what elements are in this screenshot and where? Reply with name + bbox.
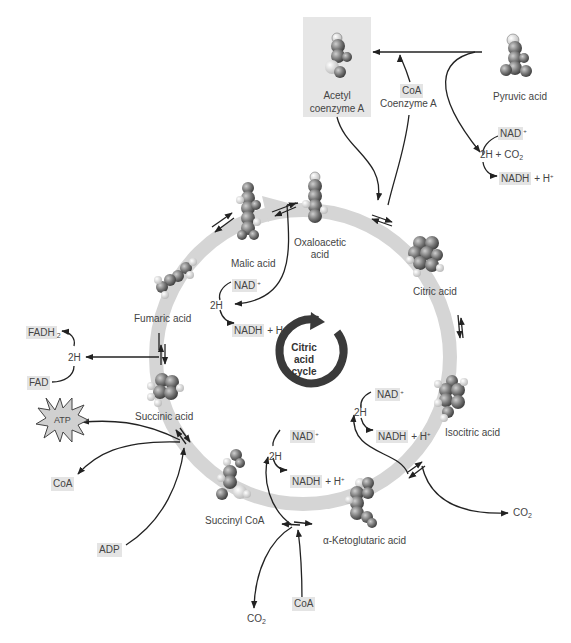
pyr-nad: NAD+ bbox=[498, 125, 527, 140]
fad: FAD bbox=[27, 376, 50, 390]
label-ketoglutaric-acid: α-Ketoglutaric acid bbox=[323, 535, 406, 547]
coa-left: CoA bbox=[51, 477, 74, 491]
label-acetyl-coa-line2: coenzyme A bbox=[303, 103, 371, 115]
ketoglutaric-molecule-icon bbox=[345, 477, 377, 528]
label-oxaloacetic-line1: Oxaloacetic bbox=[290, 237, 350, 249]
iso-co2: CO2 bbox=[513, 507, 532, 522]
iso-nad: NAD+ bbox=[375, 386, 404, 401]
fadh2: FADH2 bbox=[26, 327, 61, 342]
center-line1: Citric bbox=[284, 342, 324, 354]
iso-nadh: NADH + H+ bbox=[376, 428, 430, 443]
chip-coa-top: CoA bbox=[400, 84, 423, 98]
mal-2h: 2H bbox=[210, 300, 223, 312]
kg-nadh: NADH + H+ bbox=[290, 473, 344, 488]
fum-2h: 2H bbox=[68, 352, 81, 364]
label-oxaloacetic-line2: acid bbox=[290, 249, 350, 261]
kg-co2: CO2 bbox=[247, 613, 266, 628]
mal-nadh: NADH + H+ bbox=[232, 322, 286, 337]
center-line2: acid bbox=[284, 354, 324, 366]
label-pyruvic-acid: Pyruvic acid bbox=[490, 91, 550, 103]
kg-nad: NAD+ bbox=[290, 428, 319, 443]
atp-label: ATP bbox=[54, 414, 71, 426]
label-succinyl-coa: Succinyl CoA bbox=[205, 515, 264, 527]
center-cycle-title: Citric acid cycle bbox=[284, 342, 324, 378]
label-acetyl-coa-line1: Acetyl bbox=[303, 90, 371, 102]
pyruvic-molecule-icon bbox=[500, 34, 532, 77]
label-isocitric-acid: Isocitric acid bbox=[445, 427, 500, 439]
label-citric-acid: Citric acid bbox=[413, 286, 457, 298]
iso-2h: 2H bbox=[354, 407, 367, 419]
label-succinic-acid: Succinic acid bbox=[135, 411, 193, 423]
center-cycle-arrowhead bbox=[310, 312, 325, 330]
label-coenzyme-a: Coenzyme A bbox=[380, 98, 437, 110]
mal-nad: NAD+ bbox=[232, 277, 261, 292]
label-malic-acid: Malic acid bbox=[231, 258, 275, 270]
kg-2h: 2H bbox=[269, 451, 282, 463]
center-line3: cycle bbox=[284, 366, 324, 378]
pyr-nadh: NADH + H+ bbox=[499, 170, 553, 185]
kg-coa: CoA bbox=[292, 597, 315, 611]
pyr-2h-co2: 2H + CO2 bbox=[480, 149, 523, 164]
label-fumaric-acid: Fumaric acid bbox=[134, 313, 191, 325]
adp: ADP bbox=[97, 543, 122, 557]
succinyl-coa-molecule-icon bbox=[216, 449, 251, 500]
